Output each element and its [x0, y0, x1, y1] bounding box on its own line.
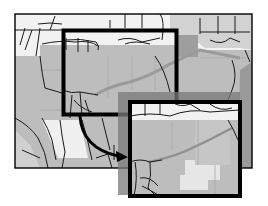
- map-zoom-diagram: [0, 0, 268, 206]
- inset-map: [130, 102, 240, 196]
